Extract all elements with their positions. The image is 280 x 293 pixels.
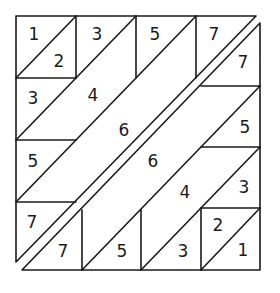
upper_piece-region-label: 7 xyxy=(209,24,220,44)
lower_piece-region-label: 1 xyxy=(238,240,249,260)
lower_piece-region-label: 5 xyxy=(117,241,128,261)
lower_piece-region-label: 3 xyxy=(178,241,189,261)
upper_piece-region-label: 3 xyxy=(28,88,39,108)
upper_piece-region-label: 4 xyxy=(88,85,99,105)
lower_piece-region-label: 7 xyxy=(58,241,69,261)
lower_piece-region-label: 2 xyxy=(213,215,224,235)
lower_piece-divider-line xyxy=(201,208,260,270)
upper_piece-divider-line xyxy=(16,16,196,202)
lower_piece-region-label: 5 xyxy=(240,117,251,137)
upper_piece-region-label: 5 xyxy=(28,151,39,171)
upper_piece-divider-line xyxy=(16,16,76,78)
dissection-diagram: 1235734657 7654321753 xyxy=(0,0,280,293)
lower_piece-region-label: 6 xyxy=(148,151,159,171)
upper_piece-region-label: 7 xyxy=(27,212,38,232)
upper_piece-region-label: 5 xyxy=(150,24,161,44)
lower_piece-region-label: 7 xyxy=(238,52,249,72)
lower_piece-region-label: 4 xyxy=(180,182,191,202)
upper_piece-region-label: 6 xyxy=(119,120,130,140)
upper_piece-region-label: 1 xyxy=(29,24,40,44)
upper_piece-region-label: 3 xyxy=(92,24,103,44)
lower_piece-divider-line xyxy=(82,86,260,270)
lower_piece-region-label: 3 xyxy=(239,177,250,197)
upper_piece-region-label: 2 xyxy=(54,51,65,71)
